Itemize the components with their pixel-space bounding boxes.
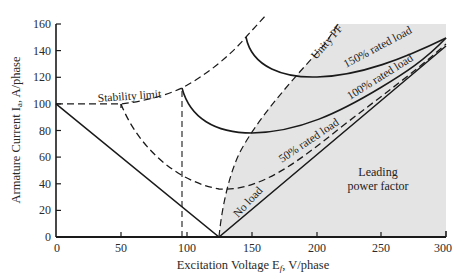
x-tick-150: 150 [243,241,261,255]
x-tick-100: 100 [178,241,196,255]
label-stability-limit: Stability limit [97,88,162,105]
x-axis-title: Excitation Voltage Ef, V/phase [177,258,330,273]
x-tick-50: 50 [115,241,127,255]
label-leading-line2: power factor [348,179,409,193]
x-tick-0: 0 [54,241,60,255]
x-tick-labels: 0 50 100 150 200 250 300 [54,241,452,255]
y-tick-labels: 0 20 40 60 80 100 120 140 160 [33,17,51,244]
y-tick-140: 140 [33,44,51,58]
label-leading-line1: Leading [358,165,397,179]
y-tick-60: 60 [39,150,51,164]
y-tick-160: 160 [33,17,51,31]
y-tick-100: 100 [33,97,51,111]
x-tick-200: 200 [308,241,326,255]
y-tick-40: 40 [39,177,51,191]
y-tick-0: 0 [45,230,51,244]
x-tick-300: 300 [434,241,452,255]
y-tick-120: 120 [33,70,51,84]
y-axis-title: Armature Current Ia, A/phase [9,56,24,203]
v-curve-chart: 0 20 40 60 80 100 120 140 160 0 50 100 1… [0,0,467,277]
curve-stability-limit [56,14,267,104]
x-tick-250: 250 [372,241,390,255]
y-tick-20: 20 [39,203,51,217]
y-tick-80: 80 [39,124,51,138]
